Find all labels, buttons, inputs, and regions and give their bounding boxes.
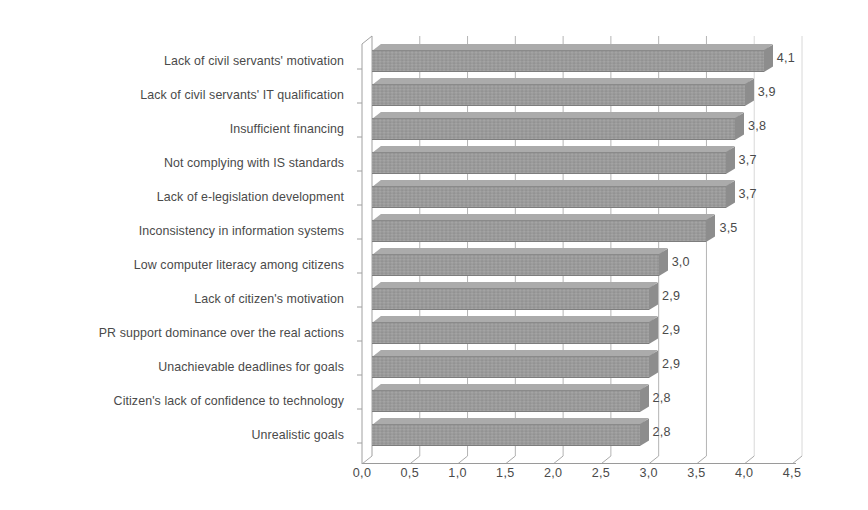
value-tick-label: 4,0	[735, 466, 753, 480]
value-axis-labels: 0,00,51,01,52,02,53,03,54,04,5	[352, 466, 852, 490]
category-label: PR support dominance over the real actio…	[0, 316, 352, 350]
value-tick-label: 2,0	[544, 466, 562, 480]
category-label: Lack of e-legislation development	[0, 180, 352, 214]
category-label: Not complying with IS standards	[0, 146, 352, 180]
category-label: Citizen's lack of confidence to technolo…	[0, 384, 352, 418]
axes-and-gridlines	[352, 32, 852, 464]
axis-tick-depth	[744, 456, 754, 464]
axis-tick-depth	[792, 456, 802, 464]
category-label: Insufficient financing	[0, 112, 352, 146]
value-tick-label: 1,5	[496, 466, 514, 480]
category-label: Low computer literacy among citizens	[0, 248, 352, 282]
axis-tick-depth	[696, 456, 706, 464]
axis-tick-depth	[410, 456, 420, 464]
axis-tick-depth	[649, 456, 659, 464]
axis-tick-depth	[362, 456, 372, 464]
value-tick-label: 3,0	[639, 466, 657, 480]
value-tick-label: 2,5	[592, 466, 610, 480]
category-label: Lack of civil servants' IT qualification	[0, 78, 352, 112]
axis-tick-depth	[601, 456, 611, 464]
axis-tick-depth	[458, 456, 468, 464]
axis-tick-depth	[505, 456, 515, 464]
value-tick-label: 0,0	[353, 466, 371, 480]
category-label: Unachievable deadlines for goals	[0, 350, 352, 384]
axis-top-connector	[362, 36, 372, 44]
plot-area: 4,13,93,83,73,73,53,02,92,92,92,82,8	[352, 32, 852, 464]
category-axis-labels: Lack of civil servants' motivationLack o…	[0, 44, 352, 452]
category-label: Lack of citizen's motivation	[0, 282, 352, 316]
value-tick-label: 4,5	[783, 466, 801, 480]
gridlines-group	[362, 36, 802, 464]
axis-tick-depth	[553, 456, 563, 464]
category-label: Inconsistency in information systems	[0, 214, 352, 248]
value-tick-label: 1,0	[448, 466, 466, 480]
bar-chart: Lack of civil servants' motivationLack o…	[0, 0, 868, 510]
value-tick-label: 0,5	[401, 466, 419, 480]
category-label: Unrealistic goals	[0, 418, 352, 452]
category-label: Lack of civil servants' motivation	[0, 44, 352, 78]
value-tick-label: 3,5	[687, 466, 705, 480]
axis-lines-group	[357, 36, 796, 464]
